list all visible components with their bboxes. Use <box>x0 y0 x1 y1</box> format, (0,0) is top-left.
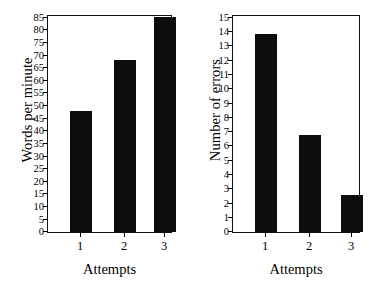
y-tickmark-number-of-errors-4 <box>228 174 232 175</box>
y-tickmark-number-of-errors-15 <box>228 17 232 18</box>
x-tick-number-of-errors-3: 3 <box>348 239 354 253</box>
plot-area-left <box>47 15 172 233</box>
y-tickmark-words-per-minute-45 <box>43 118 47 119</box>
x-axis-title-left: Attempts <box>47 261 172 277</box>
y-tickmark-words-per-minute-25 <box>43 168 47 169</box>
y-tickmark-words-per-minute-80 <box>43 29 47 30</box>
y-tickmark-number-of-errors-2 <box>228 203 232 204</box>
y-tickmark-words-per-minute-10 <box>43 206 47 207</box>
bar-number-of-errors-2 <box>299 135 321 232</box>
y-tickmark-words-per-minute-15 <box>43 193 47 194</box>
x-tick-number-of-errors-1: 1 <box>262 239 268 253</box>
y-tickmark-number-of-errors-0 <box>228 231 232 232</box>
y-tickmark-words-per-minute-40 <box>43 130 47 131</box>
y-tickmark-number-of-errors-12 <box>228 60 232 61</box>
y-tickmark-number-of-errors-14 <box>228 31 232 32</box>
y-tickmark-number-of-errors-1 <box>228 217 232 218</box>
y-tickmark-words-per-minute-5 <box>43 219 47 220</box>
y-axis-tick-labels-right: 0123456789101112131415 <box>188 0 229 291</box>
y-tickmark-number-of-errors-10 <box>228 88 232 89</box>
figure-bar-charts: Words per minute 05101520253035404550556… <box>0 0 376 291</box>
chart-panel-words-per-minute: Words per minute 05101520253035404550556… <box>0 0 188 291</box>
bar-words-per-minute-2 <box>114 60 136 232</box>
y-tickmark-number-of-errors-5 <box>228 160 232 161</box>
x-tickmark-number-of-errors-1 <box>265 233 266 237</box>
x-tickmark-words-per-minute-2 <box>124 233 125 237</box>
y-tickmark-words-per-minute-85 <box>43 17 47 18</box>
y-tickmark-number-of-errors-9 <box>228 103 232 104</box>
bar-number-of-errors-3 <box>341 195 363 232</box>
x-tick-number-of-errors-2: 2 <box>306 239 312 253</box>
x-tickmark-number-of-errors-2 <box>309 233 310 237</box>
x-axis-title-right: Attempts <box>232 261 360 277</box>
y-tickmark-words-per-minute-55 <box>43 92 47 93</box>
bar-words-per-minute-3 <box>154 17 176 232</box>
y-tickmark-words-per-minute-50 <box>43 105 47 106</box>
y-tickmark-number-of-errors-8 <box>228 117 232 118</box>
y-tickmark-number-of-errors-11 <box>228 74 232 75</box>
y-tickmark-words-per-minute-70 <box>43 55 47 56</box>
y-tickmark-words-per-minute-20 <box>43 181 47 182</box>
x-tickmark-words-per-minute-3 <box>164 233 165 237</box>
y-tickmark-number-of-errors-6 <box>228 145 232 146</box>
chart-panel-number-of-errors: Number of errors 0123456789101112131415 … <box>188 0 376 291</box>
y-tickmark-words-per-minute-65 <box>43 67 47 68</box>
x-tick-words-per-minute-3: 3 <box>161 239 167 253</box>
x-tickmark-number-of-errors-3 <box>351 233 352 237</box>
y-tickmark-words-per-minute-30 <box>43 156 47 157</box>
y-tickmark-number-of-errors-3 <box>228 188 232 189</box>
plot-area-right <box>232 15 360 233</box>
bar-number-of-errors-1 <box>255 34 277 232</box>
x-tick-words-per-minute-1: 1 <box>77 239 83 253</box>
y-axis-tick-labels-left: 0510152025303540455055606570758085 <box>0 0 44 291</box>
y-tickmark-number-of-errors-13 <box>228 45 232 46</box>
x-tickmark-words-per-minute-1 <box>80 233 81 237</box>
x-tick-words-per-minute-2: 2 <box>121 239 127 253</box>
y-tickmark-words-per-minute-0 <box>43 231 47 232</box>
y-tickmark-words-per-minute-75 <box>43 42 47 43</box>
y-tickmark-words-per-minute-35 <box>43 143 47 144</box>
y-tickmark-words-per-minute-60 <box>43 80 47 81</box>
bar-words-per-minute-1 <box>70 111 92 232</box>
y-tickmark-number-of-errors-7 <box>228 131 232 132</box>
